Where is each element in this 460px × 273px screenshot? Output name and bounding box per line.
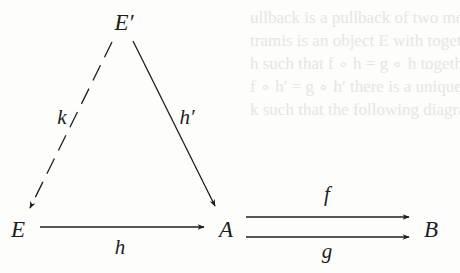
label-g: g xyxy=(322,241,333,262)
object-b: B xyxy=(424,218,438,241)
object-e-prime: E′ xyxy=(114,11,133,34)
arrow-k xyxy=(30,42,112,208)
label-h: h xyxy=(115,237,126,258)
arrow-h-prime xyxy=(133,41,215,206)
object-e: E xyxy=(11,218,25,241)
label-f: f xyxy=(324,184,330,205)
label-k: k xyxy=(57,107,66,128)
object-a: A xyxy=(219,218,233,241)
label-h-prime: h′ xyxy=(179,107,194,128)
